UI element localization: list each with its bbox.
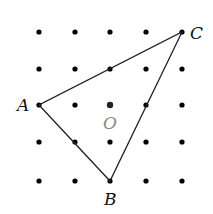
grid-dot [36,66,41,71]
grid-dot [36,178,41,183]
grid-dot [179,139,184,144]
grid-dot [72,29,77,34]
grid-dot [179,178,184,183]
grid-dot [107,29,112,34]
grid-dot [143,178,148,183]
grid-dot [107,139,112,144]
grid-dot [72,66,77,71]
grid-dot [143,29,148,34]
vertex-label-c: C [190,23,203,43]
grid-dot [36,139,41,144]
grid-dot [72,102,77,107]
grid-dot [72,178,77,183]
grid-dot [179,102,184,107]
vertex-label-b: B [103,189,117,209]
lattice-triangle-diagram: A B C O [0,0,213,214]
grid-dot [143,66,148,71]
grid-dot [143,139,148,144]
center-label-o: O [103,113,117,133]
grid-dot [36,29,41,34]
grid-dot [179,66,184,71]
vertex-label-a: A [15,95,29,115]
center-point-o [107,102,113,108]
